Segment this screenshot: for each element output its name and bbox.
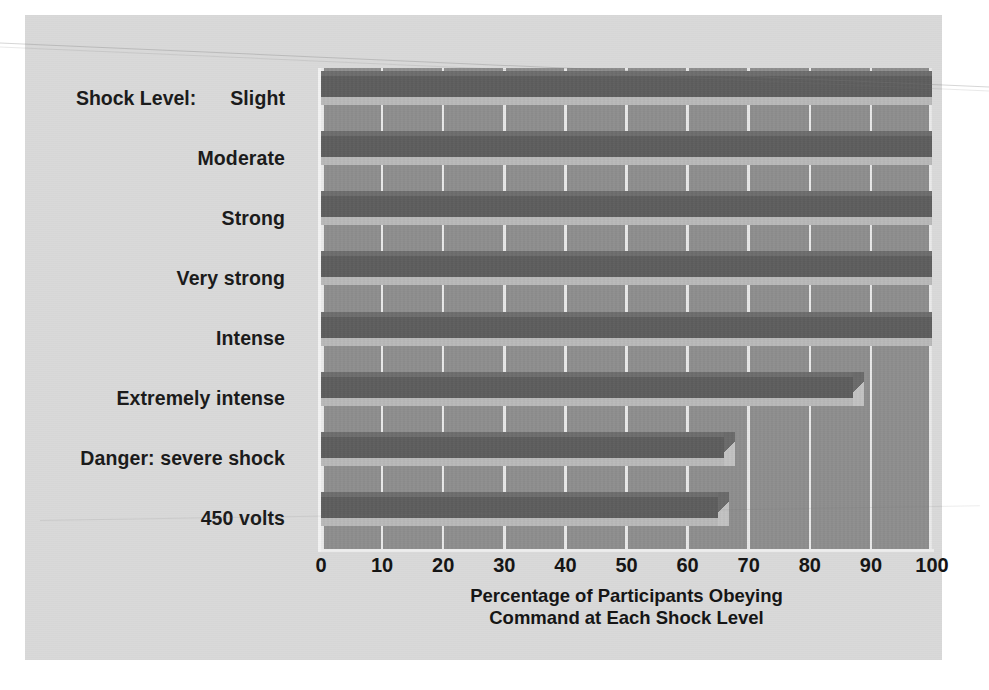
bar-face	[321, 251, 932, 277]
x-axis-title: Percentage of Participants Obeying Comma…	[321, 585, 932, 629]
bar-row	[321, 248, 932, 308]
category-axis-labels: Shock Level: Slight Moderate Strong Very…	[25, 68, 296, 549]
x-tick-label: 90	[860, 554, 882, 577]
bar-row	[321, 68, 932, 128]
bar[interactable]	[321, 372, 853, 406]
plot-area	[321, 68, 932, 549]
bar-end-cap	[718, 492, 729, 526]
value-axis-line	[318, 68, 321, 552]
category-label: Slight	[230, 87, 285, 110]
bar-highlight	[321, 312, 932, 317]
bar-bevel	[321, 338, 932, 346]
bar-face	[321, 432, 724, 458]
bar-highlight	[321, 191, 932, 196]
x-tick-label: 0	[315, 554, 326, 577]
bar-row	[321, 309, 932, 369]
bar-face	[321, 372, 853, 398]
x-tick-label: 60	[676, 554, 698, 577]
category-axis-line	[321, 549, 934, 552]
bar-bevel	[321, 518, 718, 526]
shock-level-axis-title: Shock Level:	[76, 87, 196, 110]
x-tick-label: 80	[799, 554, 821, 577]
category-label: Danger: severe shock	[80, 447, 285, 470]
category-label: 450 volts	[201, 507, 285, 530]
category-row-moderate: Moderate	[25, 128, 296, 188]
category-row-intense: Intense	[25, 308, 296, 368]
bar-row	[321, 429, 932, 489]
x-axis-tick-labels: 0102030405060708090100	[321, 554, 932, 580]
category-row-extremely-intense: Extremely intense	[25, 369, 296, 429]
bar-highlight	[321, 131, 932, 136]
bar[interactable]	[321, 492, 718, 526]
bar-row	[321, 128, 932, 188]
bar[interactable]	[321, 71, 932, 105]
bar-highlight	[321, 432, 724, 437]
bar-row	[321, 369, 932, 429]
bar-face	[321, 492, 718, 518]
category-row-danger-severe-shock: Danger: severe shock	[25, 429, 296, 489]
bar-highlight	[321, 251, 932, 256]
bar-highlight	[321, 372, 853, 377]
bar-end-cap	[724, 432, 735, 466]
bar-row	[321, 188, 932, 248]
bar[interactable]	[321, 251, 932, 285]
category-label: Very strong	[177, 267, 285, 290]
x-tick-label: 50	[615, 554, 637, 577]
x-axis-title-line2: Command at Each Shock Level	[321, 607, 932, 629]
category-row-very-strong: Very strong	[25, 248, 296, 308]
bar[interactable]	[321, 312, 932, 346]
bar[interactable]	[321, 432, 724, 466]
bar-face	[321, 71, 932, 97]
x-tick-label: 70	[738, 554, 760, 577]
bar-face	[321, 312, 932, 338]
x-tick-label: 40	[554, 554, 576, 577]
bar-bevel	[321, 398, 853, 406]
bar-bevel	[321, 458, 724, 466]
category-row-strong: Strong	[25, 188, 296, 248]
bar-bevel	[321, 157, 932, 165]
category-label: Extremely intense	[116, 387, 285, 410]
bar-bevel	[321, 97, 932, 105]
bar-highlight	[321, 492, 718, 497]
bar[interactable]	[321, 131, 932, 165]
x-tick-label: 20	[432, 554, 454, 577]
x-tick-label: 100	[915, 554, 948, 577]
x-axis-title-line1: Percentage of Participants Obeying	[321, 585, 932, 607]
chart-card: Shock Level: Slight Moderate Strong Very…	[25, 15, 942, 660]
bar-row	[321, 489, 932, 549]
bar-highlight	[321, 71, 932, 76]
bar[interactable]	[321, 191, 932, 225]
category-row-slight: Shock Level: Slight	[25, 68, 296, 128]
bar-bevel	[321, 277, 932, 285]
bar-bevel	[321, 217, 932, 225]
x-tick-label: 30	[493, 554, 515, 577]
category-row-450-volts: 450 volts	[25, 489, 296, 549]
x-tick-label: 10	[371, 554, 393, 577]
category-label: Moderate	[198, 147, 285, 170]
bar-face	[321, 131, 932, 157]
bar-end-cap	[853, 372, 864, 406]
category-label: Intense	[216, 327, 285, 350]
bar-face	[321, 191, 932, 217]
category-label: Strong	[222, 207, 285, 230]
